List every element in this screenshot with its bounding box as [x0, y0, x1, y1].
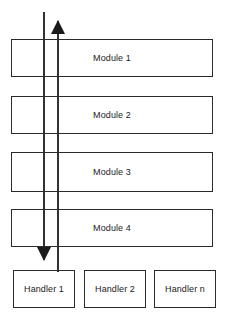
handler-box-1[interactable]: Handler 1: [13, 270, 75, 308]
module-box-4[interactable]: Module 4: [11, 209, 213, 247]
module-box-1[interactable]: Module 1: [11, 39, 213, 77]
module-label-1: Module 1: [93, 54, 131, 63]
handler-box-n[interactable]: Handler n: [154, 270, 216, 308]
handler-box-2[interactable]: Handler 2: [84, 270, 146, 308]
module-box-2[interactable]: Module 2: [11, 96, 213, 134]
module-label-4: Module 4: [93, 224, 131, 233]
module-box-3[interactable]: Module 3: [11, 152, 213, 192]
module-label-3: Module 3: [93, 168, 131, 177]
module-label-2: Module 2: [93, 111, 131, 120]
handler-label-2: Handler 2: [95, 285, 135, 294]
handler-label-1: Handler 1: [24, 285, 64, 294]
handler-label-n: Handler n: [165, 285, 205, 294]
diagram-canvas: Module 1 Module 2 Module 3 Module 4 Hand…: [0, 0, 226, 319]
